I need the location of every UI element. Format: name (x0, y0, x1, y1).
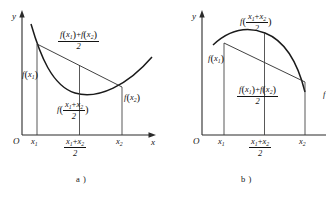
panel-a-label-f-x2: f(x2) (124, 93, 140, 104)
panel-a-tick-label-x1: x1 (31, 137, 38, 147)
panel-a-label-f-x1: f(x1) (22, 70, 38, 81)
concave-curve (213, 30, 305, 92)
panel-b-label-f-x1: f(x1) (208, 54, 224, 65)
panel-b-y-axis-label: y (192, 12, 196, 21)
panel-a-y-axis-label: y (12, 12, 16, 21)
panel-a-label-f-of-midpoint: f( x1+x2 2 ) (57, 100, 89, 121)
panel-b-caption: b ) (241, 174, 252, 184)
panel-b-tick-label-x1: x1 (218, 137, 225, 147)
convex-concave-figure: y x O x1 x1+x2 2 x2 f(x1)+f(x2) 2 f(x1) … (0, 0, 326, 197)
panel-b-tick-label-midpoint: x1+x2 2 (249, 137, 271, 158)
panel-b-concave: y O x1 x1+x2 2 x2 f( x1+x2 2 ) f(x1) f(x… (163, 0, 326, 197)
panel-a-x-axis-label: x (151, 138, 155, 147)
panel-a-label-average-of-values: f(x1)+f(x2) 2 (58, 29, 99, 51)
y-axis-arrowhead (199, 10, 204, 18)
panel-a-convex: y x O x1 x1+x2 2 x2 f(x1)+f(x2) 2 f(x1) … (0, 0, 163, 197)
panel-b-label-f-of-midpoint: f( x1+x2 2 ) (240, 12, 272, 33)
panel-b-origin-label: O (193, 137, 200, 146)
panel-b-label-f-x2-partial: f (323, 90, 325, 99)
panel-b-tick-label-x2: x2 (299, 137, 306, 147)
panel-a-tick-label-x2: x2 (116, 137, 123, 147)
panel-b-label-average-of-values: f(x1)+f(x2) 2 (237, 84, 278, 106)
y-axis-arrowhead (19, 10, 24, 18)
panel-a-origin-label: O (13, 137, 20, 146)
panel-a-caption: a ) (76, 174, 86, 184)
panel-a-tick-label-midpoint: x1+x2 2 (64, 137, 86, 158)
